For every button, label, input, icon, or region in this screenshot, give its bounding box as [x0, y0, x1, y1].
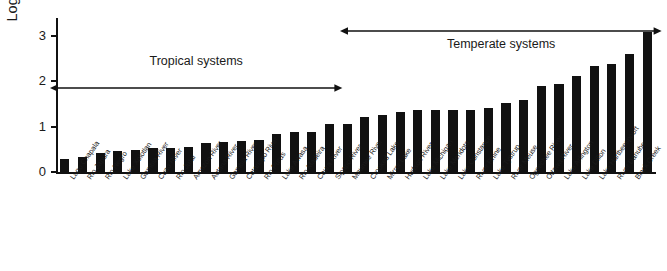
y-axis-tick-label: 1: [30, 119, 46, 134]
y-axis-tick-label: 3: [30, 28, 46, 43]
y-axis-tick-label: 0: [30, 164, 46, 179]
y-axis-title-text: Log (BPmax min: [4, 0, 20, 21]
annotation-tropical-label: Tropical systems: [150, 54, 243, 68]
annotation-temperate-arrow: [340, 23, 662, 39]
annotation-temperate-label: Temperate systems: [447, 37, 555, 51]
y-axis-tick: [51, 171, 57, 173]
y-axis-tick: [51, 126, 57, 128]
y-axis-tick: [51, 35, 57, 37]
y-axis-title: Log (BPmax min-1): [2, 0, 24, 36]
annotation-tropical-arrow: [50, 80, 342, 96]
y-axis-tick-label: 2: [30, 73, 46, 88]
bar: [60, 159, 69, 172]
bar-chart-figure: Log (BPmax min-1) 0123 Lago ChapalaRio J…: [0, 0, 667, 271]
